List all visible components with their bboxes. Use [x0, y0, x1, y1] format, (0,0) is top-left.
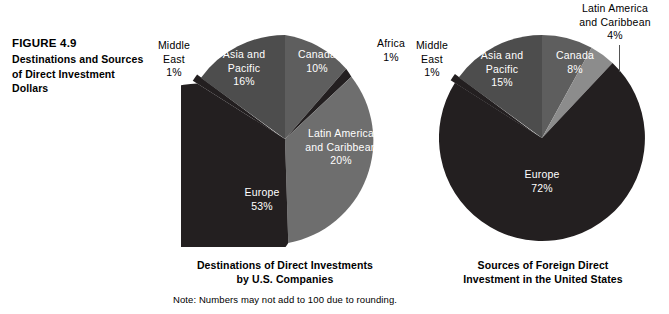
slice-label-asia-pacific-value: 16%: [199, 75, 289, 89]
slice-label-europe-line1: Europe: [217, 186, 307, 200]
figure-number: FIGURE 4.9: [12, 36, 152, 51]
slice-label-europe: Europe 72%: [497, 168, 587, 195]
chart-title-destinations-line2: by U.S. Companies: [175, 272, 395, 286]
chart-title-destinations-line1: Destinations of Direct Investments: [175, 258, 395, 272]
outside-label-latin-america-sources: Latin America and Caribbean 4%: [562, 2, 668, 43]
outside-label-middle-east-destinations: Middle East 1%: [146, 39, 202, 80]
chart-title-destinations: Destinations of Direct Investments by U.…: [175, 258, 395, 286]
outside-label-middle-east-destinations-value: 1%: [146, 66, 202, 80]
slice-label-asia-pacific-value: 15%: [457, 76, 547, 90]
slice-label-latin-america-line2: and Caribbean: [282, 141, 400, 155]
outside-label-latin-america-sources-line2: and Caribbean: [562, 16, 668, 30]
slice-label-asia-pacific: Asia and Pacific 15%: [457, 49, 547, 90]
slice-label-europe-value: 53%: [217, 200, 307, 214]
slice-label-asia-pacific-line2: Pacific: [199, 62, 289, 76]
figure-caption-block: FIGURE 4.9 Destinations and Sources of D…: [12, 36, 152, 96]
pie-chart-destinations: Asia and Pacific 16% Canada 10% Latin Am…: [181, 31, 393, 247]
slice-label-europe-line1: Europe: [497, 168, 587, 182]
slice-label-canada-line1: Canada: [544, 49, 606, 63]
outside-label-middle-east-destinations-line2: East: [146, 53, 202, 67]
outside-label-middle-east-destinations-line1: Middle: [146, 39, 202, 53]
outside-label-latin-america-sources-line1: Latin America: [562, 2, 668, 16]
slice-label-canada: Canada 8%: [544, 49, 606, 76]
slice-label-europe-value: 72%: [497, 182, 587, 196]
figure-description-line-3: Dollars: [12, 81, 152, 96]
outside-label-middle-east-sources-line1: Middle: [404, 39, 460, 53]
outside-label-middle-east-sources-line2: East: [404, 53, 460, 67]
slice-label-asia-pacific-line1: Asia and: [199, 48, 289, 62]
slice-label-europe: Europe 53%: [217, 186, 307, 213]
slice-label-asia-pacific-line2: Pacific: [457, 63, 547, 77]
outside-label-middle-east-sources: Middle East 1%: [404, 39, 460, 80]
figure-description: Destinations and Sources of Direct Inves…: [12, 52, 152, 96]
chart-title-sources-line2: Investment in the United States: [430, 272, 656, 286]
slice-label-asia-pacific: Asia and Pacific 16%: [199, 48, 289, 89]
slice-label-canada: Canada 10%: [285, 48, 349, 75]
slice-label-latin-america-value: 20%: [282, 154, 400, 168]
outside-label-middle-east-sources-value: 1%: [404, 66, 460, 80]
chart-title-sources-line1: Sources of Foreign Direct: [430, 258, 656, 272]
pie-chart-sources: Asia and Pacific 15% Canada 8% Europe 72…: [439, 32, 647, 244]
figure-description-line-2: of Direct Investment: [12, 67, 152, 82]
chart-title-sources: Sources of Foreign Direct Investment in …: [430, 258, 656, 286]
slice-label-latin-america: Latin America and Caribbean 20%: [282, 127, 400, 168]
leader-line-latin-america-sources: [619, 45, 620, 72]
outside-label-latin-america-sources-value: 4%: [562, 29, 668, 43]
slice-label-asia-pacific-line1: Asia and: [457, 49, 547, 63]
slice-label-canada-line1: Canada: [285, 48, 349, 62]
rounding-note: Note: Numbers may not add to 100 due to …: [145, 294, 425, 305]
slice-label-canada-value: 10%: [285, 62, 349, 76]
slice-label-latin-america-line1: Latin America: [282, 127, 400, 141]
figure-description-line-1: Destinations and Sources: [12, 52, 152, 67]
slice-label-canada-value: 8%: [544, 63, 606, 77]
figure-container: FIGURE 4.9 Destinations and Sources of D…: [0, 0, 669, 314]
